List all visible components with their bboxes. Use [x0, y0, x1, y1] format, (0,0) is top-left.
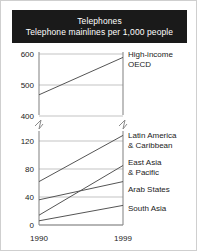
chart-plot-area: 600 500 400 High-income OECD: [1, 45, 197, 251]
figure-telephones: Telephones Telephone mainlines per 1,000…: [0, 0, 197, 251]
ytick-label-lower-2: 40: [25, 193, 34, 202]
series-label-south-asia: South Asia: [128, 204, 167, 213]
series-label-arab-states: Arab States: [128, 185, 170, 194]
ytick-label-lower-0: 120: [21, 137, 35, 146]
ytick-label-upper-2: 400: [21, 112, 35, 121]
xtick-label-1990: 1990: [30, 234, 48, 243]
xtick-label-1999: 1999: [114, 234, 132, 243]
series-label-high-income-oecd-line2: OECD: [128, 60, 151, 69]
lower-panel-frame: [39, 131, 123, 225]
series-label-latin-america-caribbean-line1: Latin America: [128, 131, 177, 140]
axis-break-left: [35, 120, 43, 129]
series-label-east-asia-pacific-line1: East Asia: [128, 158, 162, 167]
upper-panel-frame: [39, 52, 123, 115]
ytick-label-lower-1: 80: [25, 165, 34, 174]
series-line-high-income-oecd: [39, 57, 123, 94]
chart-title-banner: Telephones Telephone mainlines per 1,000…: [12, 10, 187, 43]
series-label-latin-america-caribbean-line2: & Caribbean: [128, 141, 172, 150]
axis-break-right: [119, 120, 127, 129]
ytick-label-upper-0: 600: [21, 50, 35, 59]
ytick-label-upper-1: 500: [21, 81, 35, 90]
series-label-high-income-oecd-line1: High-income: [128, 50, 173, 59]
axis-break-marks: [35, 120, 127, 129]
lower-panel-gridlines: [39, 141, 123, 225]
chart-title: Telephones: [77, 16, 121, 27]
series-label-east-asia-pacific-line2: & Pacific: [128, 168, 159, 177]
ytick-label-lower-3: 0: [30, 221, 35, 230]
series-line-latin-america-caribbean: [39, 135, 123, 181]
chart-subtitle: Telephone mainlines per 1,000 people: [26, 27, 173, 38]
